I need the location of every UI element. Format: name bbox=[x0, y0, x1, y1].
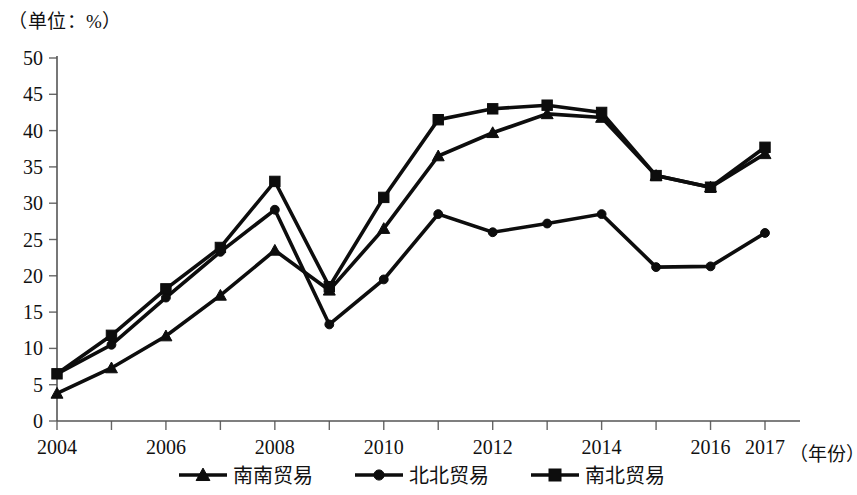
data-point bbox=[106, 330, 116, 340]
data-point bbox=[270, 205, 279, 214]
circle-marker-icon bbox=[353, 464, 405, 486]
data-series-group bbox=[51, 100, 771, 398]
triangle-marker-icon bbox=[177, 464, 229, 486]
y-tick-label: 25 bbox=[23, 229, 43, 251]
data-point bbox=[379, 192, 389, 202]
data-point bbox=[705, 182, 715, 192]
x-tick-label: 2008 bbox=[255, 436, 295, 458]
y-tick-label: 20 bbox=[23, 265, 43, 287]
data-point bbox=[488, 228, 497, 237]
data-point bbox=[433, 115, 443, 125]
y-tick-label: 10 bbox=[23, 337, 43, 359]
data-point bbox=[270, 176, 280, 186]
x-tick-label: 2004 bbox=[37, 436, 77, 458]
data-point bbox=[596, 107, 606, 117]
legend-label: 北北贸易 bbox=[409, 460, 489, 489]
series-square bbox=[52, 100, 770, 379]
legend-item-2[interactable]: 北北贸易 bbox=[353, 460, 489, 489]
data-point bbox=[269, 244, 281, 255]
data-point bbox=[652, 263, 661, 272]
data-point bbox=[434, 210, 443, 219]
data-point bbox=[161, 284, 171, 294]
series-triangle bbox=[51, 108, 771, 398]
x-tick-label: 2014 bbox=[582, 436, 622, 458]
y-tick-label: 15 bbox=[23, 301, 43, 323]
data-point bbox=[597, 210, 606, 219]
data-point bbox=[325, 320, 334, 329]
x-tick-label: 2010 bbox=[364, 436, 404, 458]
x-axis-ticks: 20042006200820102012201420162017 bbox=[37, 421, 785, 458]
y-tick-label: 50 bbox=[23, 47, 43, 69]
y-tick-label: 5 bbox=[33, 374, 43, 396]
legend-item-3[interactable]: 南北贸易 bbox=[529, 460, 665, 489]
x-tick-label: 2017 bbox=[745, 436, 785, 458]
x-tick-label: 2006 bbox=[146, 436, 186, 458]
chart-legend: 南南贸易北北贸易南北贸易 bbox=[0, 460, 841, 489]
data-point bbox=[324, 281, 334, 291]
square-marker-icon bbox=[529, 464, 581, 486]
x-tick-label: 2016 bbox=[691, 436, 731, 458]
y-tick-label: 40 bbox=[23, 120, 43, 142]
data-point bbox=[487, 104, 497, 114]
x-tick-label: 2012 bbox=[473, 436, 513, 458]
legend-label: 南南贸易 bbox=[233, 460, 313, 489]
data-point bbox=[651, 170, 661, 180]
legend-label: 南北贸易 bbox=[585, 460, 665, 489]
data-point bbox=[215, 242, 225, 252]
data-point bbox=[761, 229, 770, 238]
data-point bbox=[543, 219, 552, 228]
data-point bbox=[760, 142, 770, 152]
y-tick-label: 45 bbox=[23, 83, 43, 105]
y-tick-label: 0 bbox=[33, 410, 43, 432]
legend-item-1[interactable]: 南南贸易 bbox=[177, 460, 313, 489]
data-point bbox=[379, 275, 388, 284]
data-point bbox=[706, 262, 715, 271]
y-tick-label: 35 bbox=[23, 156, 43, 178]
data-point bbox=[542, 100, 552, 110]
y-tick-label: 30 bbox=[23, 192, 43, 214]
data-point bbox=[107, 340, 116, 349]
data-point bbox=[52, 369, 62, 379]
